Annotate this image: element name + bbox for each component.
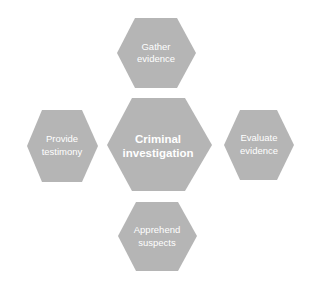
criminal-investigation-diagram: Gather evidence Provide testimony Crimin… [0, 0, 310, 284]
node-label-line-1: Provide [46, 133, 78, 144]
node-label-line-1: Gather [141, 41, 170, 52]
node-label-line-2: suspects [138, 237, 176, 248]
node-label-line-1: Apprehend [134, 224, 180, 235]
node-label-line-1: Evaluate [241, 132, 278, 143]
center-label-line-2: investigation [123, 147, 194, 159]
node-label-line-2: evidence [137, 53, 175, 64]
hex-center-criminal-investigation: Criminal investigation [107, 98, 212, 191]
hex-node-apprehend-suspects: Apprehend suspects [118, 202, 197, 271]
node-label-line-2: testimony [42, 146, 83, 157]
center-label-line-1: Criminal [135, 133, 181, 145]
hex-node-evaluate-evidence: Evaluate evidence [224, 110, 294, 180]
hex-node-provide-testimony: Provide testimony [27, 110, 98, 182]
hex-node-gather-evidence: Gather evidence [117, 18, 196, 88]
node-label-line-2: evidence [240, 145, 278, 156]
